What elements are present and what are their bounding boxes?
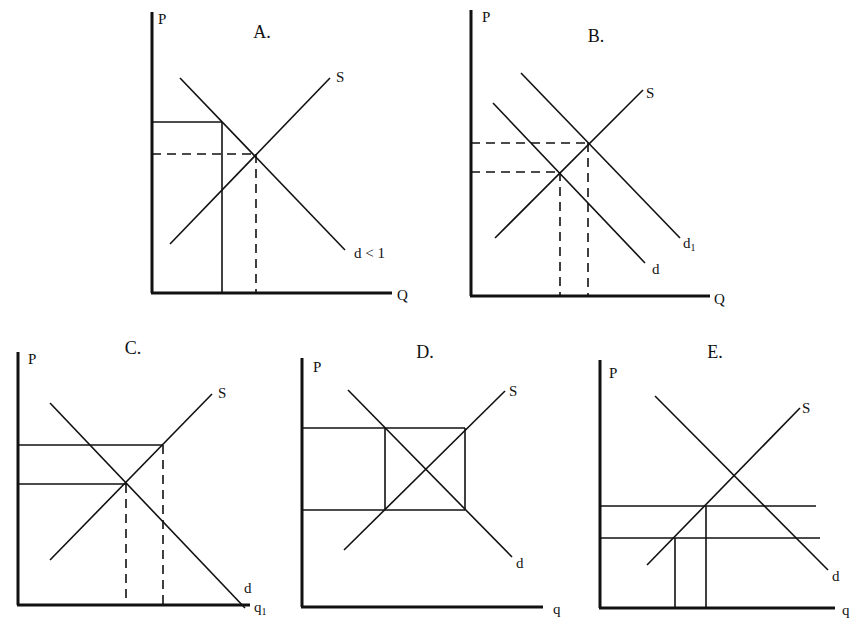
y-axis-label: P	[609, 365, 617, 381]
x-axis-label: Q	[714, 291, 725, 307]
panel-title: B.	[588, 26, 605, 46]
panel-title: D.	[416, 342, 434, 362]
page-background	[0, 0, 862, 628]
panel-title: A.	[253, 22, 271, 42]
curve-label: d	[832, 568, 840, 584]
curve-label: d	[516, 555, 524, 571]
curve-label: d	[244, 580, 252, 596]
panel-title: E.	[707, 342, 723, 362]
x-axis-label: q	[842, 602, 850, 618]
curve-label: S	[646, 85, 654, 101]
y-axis-label: P	[313, 359, 321, 375]
y-axis-label: P	[28, 351, 36, 367]
curve-label: S	[802, 400, 810, 416]
supply-demand-figure: A. P Q d < 1S B. P Q dd1S C. P q1 dS D. …	[0, 0, 862, 628]
y-axis-label: P	[158, 11, 166, 27]
y-axis-label: P	[482, 9, 490, 25]
panel-title: C.	[125, 338, 142, 358]
curve-label: S	[336, 69, 344, 85]
x-axis-label: Q	[397, 287, 408, 303]
curve-label: d < 1	[354, 245, 385, 261]
x-axis-label: q	[553, 601, 561, 617]
curve-label: S	[218, 385, 226, 401]
curve-label: S	[509, 383, 517, 399]
curve-label: d	[652, 261, 660, 277]
